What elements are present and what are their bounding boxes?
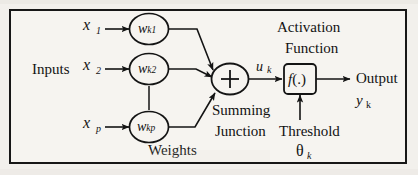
weight-wkp-base: w (137, 119, 146, 134)
summing-junction-label-line1: Summing (212, 103, 270, 118)
activation-function-symbol: f(.) (288, 71, 306, 88)
link-wkp-to-sum (169, 93, 215, 127)
activation-symbol-paren: (.) (292, 71, 306, 87)
weight-wk2-sub: k2 (147, 65, 156, 75)
weight-label-wk1: wk1 (138, 21, 156, 37)
threshold-symbol-theta: θ (296, 142, 304, 159)
link-wk2-to-sum (169, 69, 212, 77)
signal-uk-sub: k (267, 65, 271, 75)
activation-function-label-line2: Function (285, 41, 338, 56)
signal-uk: uk (256, 58, 263, 74)
input-x1: x1 (83, 17, 90, 33)
input-xp-sub: p (96, 124, 101, 134)
output-label: Output (356, 71, 398, 86)
input-xp-base: x (83, 114, 90, 131)
weight-wk1-sub: k1 (147, 25, 156, 35)
input-x2-sub: 2 (96, 66, 101, 76)
output-signal-yk: yk (356, 92, 363, 108)
activation-function-label-line1: Activation (277, 20, 340, 35)
threshold-symbol-sub: k (307, 150, 311, 161)
weight-label-wkp: wkp (137, 119, 155, 135)
input-x1-base: x (83, 16, 90, 33)
input-x2: x2 (83, 57, 90, 73)
threshold-symbol: θk (296, 142, 304, 160)
threshold-label: Threshold (279, 124, 340, 139)
weight-wkp-sub: kp (146, 123, 155, 133)
input-xp: xp (83, 115, 90, 131)
summing-junction-label-line2: Junction (215, 124, 266, 139)
output-yk-base: y (356, 92, 363, 108)
weight-label-wk2: wk2 (138, 61, 156, 77)
output-yk-sub: k (366, 100, 371, 110)
link-wk1-to-sum (169, 29, 213, 70)
input-x1-sub: 1 (96, 26, 101, 36)
diagram-vector-layer (0, 0, 418, 175)
input-x2-base: x (83, 56, 90, 73)
figure-canvas: Inputs x1 x2 xp wk1 wk2 wkp Weights uk f… (0, 0, 418, 175)
signal-uk-base: u (256, 59, 263, 74)
weight-wk2-base: w (138, 61, 147, 76)
weights-label: Weights (148, 143, 197, 158)
weight-wk1-base: w (138, 21, 147, 36)
inputs-label: Inputs (32, 62, 70, 77)
